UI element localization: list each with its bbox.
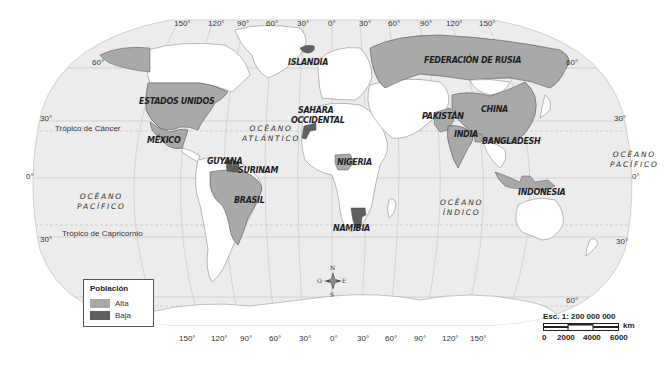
scale-unit: km bbox=[623, 321, 635, 330]
label-islandia: ISLANDIA bbox=[288, 58, 328, 67]
lon-tick-bottom-60e: 60° bbox=[385, 334, 397, 343]
lat-tick-left-60n: 60° bbox=[92, 58, 104, 67]
label-brasil: BRASIL bbox=[234, 196, 265, 205]
lon-tick-bottom-30e: 30° bbox=[357, 334, 369, 343]
lon-tick-top-30e: 30° bbox=[359, 19, 371, 28]
scale-mark-4000: 4000 bbox=[583, 333, 601, 342]
label-federacion-rusia: FEDERACIÓN DE RUSIA bbox=[424, 56, 521, 65]
tropic-of-cancer-label: Trópico de Cáncer bbox=[55, 124, 121, 133]
ocean-label-indico: OCÉANO ÍNDICO bbox=[440, 198, 483, 218]
europe bbox=[318, 48, 372, 101]
label-mexico: MÉXICO bbox=[147, 136, 180, 145]
lon-tick-top-120e: 120° bbox=[446, 19, 463, 28]
ocean-label-pacifico-east: OCÉANO PACÍFICO bbox=[610, 150, 659, 170]
compass-s: S bbox=[330, 291, 334, 298]
lat-tick-right-30n: 30° bbox=[614, 114, 626, 123]
lat-tick-left-30n: 30° bbox=[40, 114, 52, 123]
ocean-label-atlantico: OCÉANO ATLÁNTICO bbox=[242, 124, 300, 144]
lat-tick-right-60n: 60° bbox=[566, 58, 578, 67]
lon-tick-top-150e: 150° bbox=[479, 19, 496, 28]
label-india: INDIA bbox=[454, 130, 478, 139]
label-pakistan: PAKISTÁN bbox=[422, 112, 464, 121]
label-guyana: GUYANA bbox=[207, 157, 242, 166]
label-indonesia: INDONESIA bbox=[518, 188, 566, 197]
label-estados-unidos: ESTADOS UNIDOS bbox=[139, 97, 214, 106]
label-bangladesh: BANGLADESH bbox=[482, 137, 540, 146]
scale-bar: Esc. 1: 200 000 000 km 0 2000 4000 6000 bbox=[543, 312, 664, 352]
compass-e: E bbox=[342, 277, 346, 284]
scale-graphic: km bbox=[543, 321, 664, 333]
legend-swatch-baja bbox=[90, 311, 110, 320]
compass-o: O bbox=[317, 277, 322, 284]
lon-tick-top-120w: 120° bbox=[208, 19, 225, 28]
lon-tick-top-60e: 60° bbox=[388, 19, 400, 28]
lat-tick-right-30s: 30° bbox=[616, 237, 628, 246]
lon-tick-bottom-90w: 90° bbox=[240, 334, 252, 343]
lon-tick-top-60w: 60° bbox=[266, 19, 278, 28]
lon-tick-bottom-90e: 90° bbox=[414, 334, 426, 343]
legend-swatch-alta bbox=[90, 299, 110, 308]
label-sahara-line2: OCCIDENTAL bbox=[291, 116, 344, 125]
label-surinam: SURINAM bbox=[238, 166, 278, 175]
lat-tick-right-60s: 60° bbox=[566, 296, 578, 305]
scale-marks: 0 2000 4000 6000 bbox=[543, 333, 664, 343]
lon-tick-top-90e: 90° bbox=[420, 19, 432, 28]
legend-item-baja: Baja bbox=[90, 309, 147, 321]
lat-tick-left-30s: 30° bbox=[40, 235, 52, 244]
label-sahara-line1: SAHARA bbox=[298, 106, 333, 115]
legend-label-baja: Baja bbox=[115, 311, 131, 320]
lon-tick-bottom-0: 0° bbox=[330, 334, 338, 343]
ocean-label-pacifico-west: OCÉANO PACÍFICO bbox=[77, 192, 126, 212]
label-namibia: NAMIBIA bbox=[333, 224, 370, 233]
lat-tick-left-0: 0° bbox=[26, 172, 34, 181]
lat-tick-right-0: 0° bbox=[632, 172, 640, 181]
label-nigeria: NIGERIA bbox=[337, 158, 372, 167]
scale-mark-0: 0 bbox=[542, 333, 546, 342]
lon-tick-top-30w: 30° bbox=[297, 19, 309, 28]
lon-tick-bottom-60w: 60° bbox=[269, 334, 281, 343]
compass-rose: N S E O bbox=[318, 264, 348, 298]
tropic-of-capricorn-label: Trópico de Capricornio bbox=[62, 229, 143, 238]
lon-tick-bottom-120e: 120° bbox=[442, 334, 459, 343]
lon-tick-bottom-30w: 30° bbox=[299, 334, 311, 343]
legend-label-alta: Alta bbox=[115, 299, 129, 308]
lon-tick-bottom-120w: 120° bbox=[211, 334, 228, 343]
legend-title: Población bbox=[90, 284, 147, 293]
legend-box: Población Alta Baja bbox=[83, 279, 154, 327]
lon-tick-top-0: 0° bbox=[328, 19, 336, 28]
lon-tick-top-150w: 150° bbox=[174, 19, 191, 28]
lon-tick-top-90w: 90° bbox=[237, 19, 249, 28]
scale-text: Esc. 1: 200 000 000 bbox=[543, 312, 664, 321]
compass-n: N bbox=[330, 264, 335, 271]
lon-tick-bottom-150w: 150° bbox=[179, 334, 196, 343]
label-china: CHINA bbox=[481, 105, 508, 114]
legend-item-alta: Alta bbox=[90, 297, 147, 309]
scale-mark-6000: 6000 bbox=[610, 333, 628, 342]
scale-mark-2000: 2000 bbox=[557, 333, 575, 342]
lon-tick-bottom-150e: 150° bbox=[470, 334, 487, 343]
